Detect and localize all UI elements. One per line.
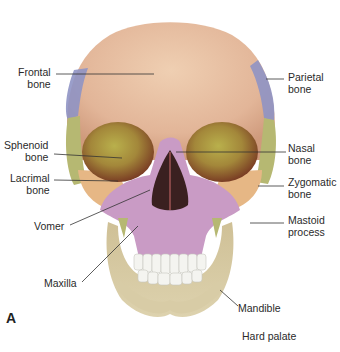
label-sphenoid-bone: Sphenoid bone [4,139,48,163]
label-text: Nasal [288,142,315,154]
label-text: Vomer [34,220,64,232]
orbit-left [82,122,154,182]
label-lacrimal-bone: Lacrimal bone [10,172,50,196]
label-maxilla: Maxilla [44,277,77,289]
label-frontal-bone: Frontal bone [18,66,51,90]
figure-letter: A [6,310,16,326]
label-text: bone [288,188,336,200]
label-text: process [288,226,325,238]
teeth [134,254,206,285]
label-text: bone [288,154,315,166]
skull-anterior-diagram: Frontal bone Parietal bone Sphenoid bone… [0,0,340,352]
label-text: bone [10,184,50,196]
label-mastoid-process: Mastoid process [288,214,325,238]
label-text: bone [18,78,51,90]
label-text: Zygomatic [288,176,336,188]
label-text: Mastoid [288,214,325,226]
label-text: Maxilla [44,277,77,289]
label-text: bone [4,151,48,163]
label-vomer: Vomer [34,220,64,232]
label-mandible: Mandible [238,302,281,314]
label-text: Hard palate [242,330,296,342]
label-parietal-bone: Parietal bone [288,71,324,95]
label-zygomatic-bone: Zygomatic bone [288,176,336,200]
label-nasal-bone: Nasal bone [288,142,315,166]
label-text: Lacrimal [10,172,50,184]
label-text: Frontal [18,66,51,78]
label-text: Mandible [238,302,281,314]
label-text: Sphenoid [4,139,48,151]
label-hard-palate: Hard palate [242,330,296,342]
label-text: Parietal [288,71,324,83]
label-text: bone [288,83,324,95]
